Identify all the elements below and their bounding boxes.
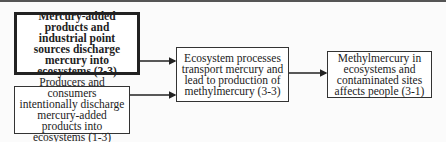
- connector-arrows: [0, 0, 446, 142]
